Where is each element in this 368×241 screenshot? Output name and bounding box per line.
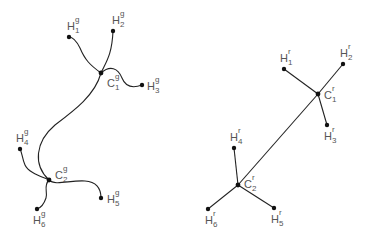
atom-element: H (33, 214, 41, 226)
atom-dot-h4 (232, 146, 236, 150)
bond-c1-h1 (284, 69, 318, 94)
atom-dot-h3 (140, 83, 144, 87)
atom-subscript: 3 (332, 137, 336, 145)
atom-superscript: r (252, 174, 255, 182)
atom-dot-h1 (282, 67, 286, 71)
atom-label-right-h4: Hr4 (230, 132, 238, 143)
atom-element: C (324, 89, 332, 101)
atom-subscript: 2 (348, 54, 352, 62)
atom-dot-c1 (316, 92, 321, 97)
atom-element: H (280, 52, 288, 64)
atom-dot-h3 (325, 123, 329, 127)
atom-label-right-h6: Hr6 (205, 215, 213, 226)
atom-element: H (340, 47, 348, 59)
atom-label-right-h3: Hr3 (324, 131, 332, 142)
atom-superscript: r (288, 48, 291, 56)
atom-dot-c2 (236, 183, 241, 188)
atom-label-left-h6: Hg6 (33, 215, 41, 226)
atom-subscript: 5 (279, 220, 283, 228)
atom-label-left-c2: Cg2 (55, 170, 63, 181)
atom-subscript: 1 (332, 96, 336, 104)
atom-element: H (147, 80, 155, 92)
atom-dot-h5 (272, 206, 276, 210)
atom-element: C (55, 169, 63, 181)
atom-dot-h1 (67, 35, 71, 39)
atom-label-left-h2: Hg2 (112, 15, 120, 26)
bond-c1-c2 (38, 73, 101, 180)
atom-dot-h4 (18, 147, 22, 151)
atom-subscript: 1 (75, 27, 79, 35)
molecule-diagram (0, 0, 368, 241)
atom-subscript: 5 (115, 200, 119, 208)
atom-subscript: 6 (41, 221, 45, 229)
atom-dot-c1 (99, 71, 104, 76)
atom-label-right-h5: Hr5 (271, 214, 279, 225)
atom-element: H (107, 193, 115, 205)
atom-superscript: r (213, 210, 216, 218)
atom-label-right-c2: Cr2 (244, 179, 252, 190)
bond-c2-h4 (234, 148, 238, 185)
atom-subscript: 4 (238, 138, 242, 146)
atom-superscript: g (155, 76, 159, 84)
atom-superscript: r (332, 85, 335, 93)
bond-c1-h1 (69, 37, 101, 73)
atom-dot-h5 (99, 196, 103, 200)
atom-subscript: 3 (155, 87, 159, 95)
atom-superscript: g (24, 128, 28, 136)
atom-superscript: g (120, 10, 124, 18)
atom-superscript: r (279, 209, 282, 217)
atom-label-right-h2: Hr2 (340, 48, 348, 59)
bond-c1-h2 (101, 31, 113, 73)
atom-element: H (205, 214, 213, 226)
atom-label-left-h3: Hg3 (147, 81, 155, 92)
atom-dot-h2 (111, 29, 115, 33)
left-molecule (18, 29, 144, 211)
atom-superscript: r (348, 43, 351, 51)
atom-label-left-h5: Hg5 (107, 194, 115, 205)
atom-superscript: r (238, 127, 241, 135)
atom-superscript: g (41, 210, 45, 218)
bond-c2-h5 (49, 180, 101, 198)
atom-superscript: g (115, 73, 119, 81)
bond-c2-h6 (208, 185, 238, 209)
atom-subscript: 1 (288, 59, 292, 67)
atom-subscript: 1 (115, 84, 119, 92)
atom-element: C (244, 178, 252, 190)
bond-c2-h6 (37, 180, 49, 209)
atom-element: C (107, 77, 115, 89)
atom-superscript: r (332, 126, 335, 134)
atom-element: H (16, 132, 24, 144)
atom-label-left-h4: Hg4 (16, 133, 24, 144)
atom-element: H (271, 213, 279, 225)
atom-subscript: 2 (63, 176, 67, 184)
atom-subscript: 2 (252, 185, 256, 193)
atom-element: H (112, 14, 120, 26)
atom-element: H (230, 131, 238, 143)
atom-element: H (67, 20, 75, 32)
atom-superscript: g (115, 189, 119, 197)
atom-dot-h6 (206, 207, 210, 211)
atom-superscript: g (75, 16, 79, 24)
atom-label-left-h1: Hg1 (67, 21, 75, 32)
bond-c1-c2 (238, 94, 318, 185)
atom-dot-h6 (35, 207, 39, 211)
atom-subscript: 6 (213, 221, 217, 229)
atom-dot-c2 (47, 178, 52, 183)
atom-dot-h2 (341, 62, 345, 66)
atom-superscript: g (63, 165, 67, 173)
atom-subscript: 4 (24, 139, 28, 147)
atom-label-right-h1: Hr1 (280, 53, 288, 64)
atom-element: H (324, 130, 332, 142)
atom-subscript: 2 (120, 21, 124, 29)
atom-label-right-c1: Cr1 (324, 90, 332, 101)
atom-label-left-c1: Cg1 (107, 78, 115, 89)
